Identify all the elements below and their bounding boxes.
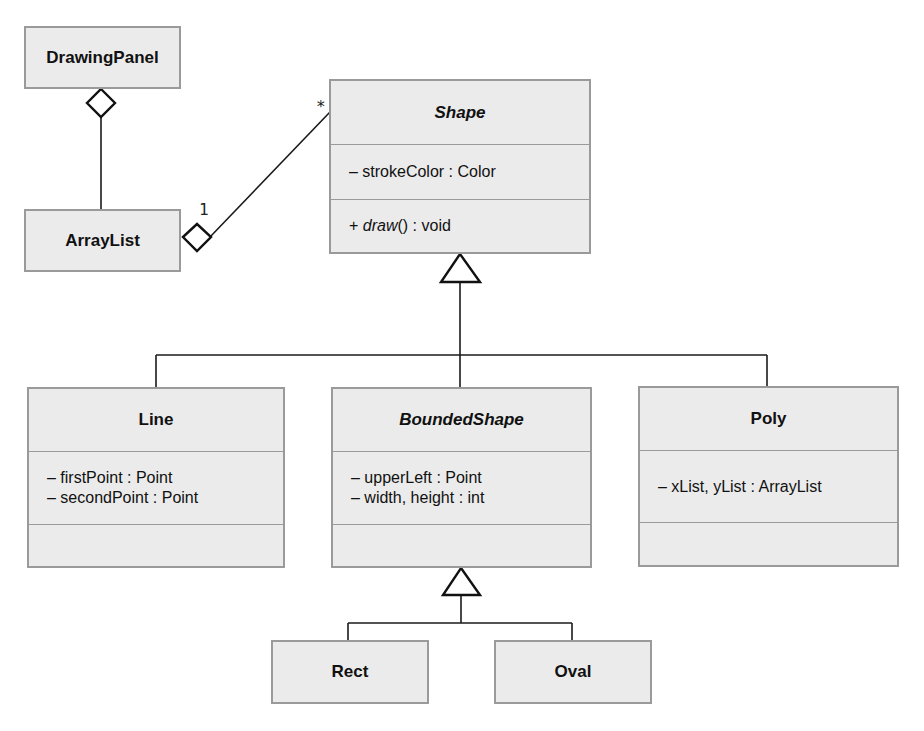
aggregation-diamond-icon (87, 89, 115, 117)
generalization-triangle-icon (441, 254, 480, 282)
operations-compartment (29, 524, 283, 566)
operation-name: draw (363, 217, 398, 234)
class-rect[interactable]: Rect (271, 640, 429, 704)
uml-diagram: 1 * DrawingPanel ArrayList Shape – strok… (0, 0, 924, 731)
operation-signature: () : void (397, 217, 450, 234)
class-name: Poly (640, 388, 897, 450)
class-poly[interactable]: Poly – xList, yList : ArrayList (638, 386, 899, 567)
class-name: ArrayList (26, 211, 179, 270)
class-drawingpanel[interactable]: DrawingPanel (24, 26, 181, 89)
class-name: DrawingPanel (26, 28, 179, 87)
class-name: Oval (496, 642, 650, 702)
attributes-compartment: – strokeColor : Color (331, 144, 589, 199)
operations-compartment (333, 524, 590, 566)
operations-compartment: + draw() : void (331, 199, 589, 252)
class-name: Rect (273, 642, 427, 702)
operation: + draw() : void (349, 216, 589, 236)
class-line[interactable]: Line – firstPoint : Point – secondPoint … (27, 387, 285, 568)
aggregation-diamond-icon (183, 224, 211, 251)
multiplicity-many: * (316, 97, 326, 116)
attributes-compartment: – upperLeft : Point – width, height : in… (333, 451, 590, 524)
class-name: Line (29, 389, 283, 451)
class-oval[interactable]: Oval (494, 640, 652, 704)
attribute: – secondPoint : Point (47, 488, 283, 508)
attribute: – width, height : int (351, 488, 590, 508)
aggregation-line-arraylist-shape (210, 112, 330, 237)
class-shape[interactable]: Shape – strokeColor : Color + draw() : v… (329, 79, 591, 254)
attribute: – strokeColor : Color (349, 162, 589, 182)
generalization-triangle-icon (443, 568, 480, 595)
attributes-compartment: – xList, yList : ArrayList (640, 450, 897, 522)
class-name: BoundedShape (333, 389, 590, 451)
multiplicity-one: 1 (199, 200, 209, 219)
attributes-compartment: – firstPoint : Point – secondPoint : Poi… (29, 451, 283, 524)
operation-visibility: + (349, 217, 363, 234)
attribute: – upperLeft : Point (351, 468, 590, 488)
class-arraylist[interactable]: ArrayList (24, 209, 181, 272)
attribute: – xList, yList : ArrayList (658, 477, 897, 497)
class-boundedshape[interactable]: BoundedShape – upperLeft : Point – width… (331, 387, 592, 568)
class-name: Shape (331, 81, 589, 144)
attribute: – firstPoint : Point (47, 468, 283, 488)
operations-compartment (640, 522, 897, 565)
